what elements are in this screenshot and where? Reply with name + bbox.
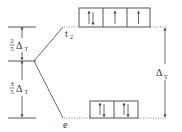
two-fifths-delta-label: 2 5 Δ T (10, 37, 29, 53)
svg-text:2: 2 (70, 34, 73, 40)
splitting-diagram: 2 5 Δ T 3 5 Δ T t 2 e (0, 0, 182, 132)
svg-text:5: 5 (10, 45, 14, 53)
e-split-line (34, 61, 63, 118)
svg-text:Δ: Δ (156, 67, 163, 78)
svg-text:3: 3 (10, 80, 14, 88)
svg-text:T: T (164, 74, 168, 80)
t2-split-line (34, 27, 63, 61)
delta-t-label: Δ T (156, 67, 168, 80)
electron-pair-icon (100, 104, 104, 116)
svg-text:2: 2 (10, 37, 14, 45)
three-fifths-delta-label: 3 5 Δ T (10, 80, 29, 96)
t2-orbital-boxes (79, 8, 150, 27)
svg-text:5: 5 (10, 88, 14, 96)
svg-text:T: T (25, 46, 29, 52)
svg-text:t: t (65, 28, 68, 39)
svg-text:Δ: Δ (16, 40, 23, 51)
electron-pair-icon (89, 12, 93, 24)
svg-text:T: T (25, 89, 29, 95)
electron-pair-icon (124, 104, 128, 116)
t2-level-label: t 2 (65, 28, 73, 40)
e-level-label: e (63, 119, 68, 130)
svg-text:Δ: Δ (16, 83, 23, 94)
e-orbital-boxes (90, 101, 138, 118)
